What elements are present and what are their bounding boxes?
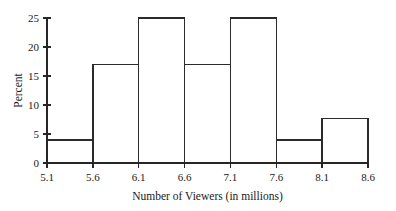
x-tick-label: 6.6 [178, 171, 192, 183]
y-tick-label: 5 [34, 128, 40, 140]
chart-canvas: 05101520255.15.66.16.67.17.68.18.6Number… [0, 0, 396, 211]
histogram-bar [185, 64, 231, 163]
histogram-bar [47, 140, 93, 163]
y-tick-label: 15 [28, 70, 40, 82]
y-tick-label: 0 [34, 157, 40, 169]
y-tick-label: 25 [28, 12, 40, 24]
histogram-bar [139, 18, 185, 163]
histogram-bar [93, 64, 139, 163]
x-tick-label: 7.6 [269, 171, 283, 183]
x-tick-label: 6.1 [132, 171, 146, 183]
x-tick-label: 5.6 [86, 171, 100, 183]
histogram-bar [276, 140, 322, 163]
x-tick-label: 8.6 [361, 171, 375, 183]
y-tick-label: 10 [28, 99, 40, 111]
x-tick-label: 5.1 [40, 171, 54, 183]
x-axis-title: Number of Viewers (in millions) [132, 190, 283, 203]
x-tick-label: 7.1 [224, 171, 238, 183]
y-axis-title: Percent [12, 72, 24, 107]
x-tick-label: 8.1 [315, 171, 329, 183]
histogram-bar [230, 18, 276, 163]
histogram-chart: 05101520255.15.66.16.67.17.68.18.6Number… [0, 0, 396, 211]
histogram-bar [322, 118, 368, 163]
y-tick-label: 20 [28, 41, 40, 53]
